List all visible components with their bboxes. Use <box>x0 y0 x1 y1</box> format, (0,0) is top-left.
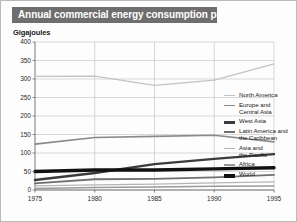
legend-item[interactable]: World <box>224 171 296 178</box>
x-tick-label: 1985 <box>147 195 162 202</box>
legend-swatch-north-america <box>224 95 235 96</box>
page-title: Annual commercial energy consumption per… <box>18 10 257 20</box>
y-tick-label: 50 <box>24 168 32 175</box>
legend-item-label: World <box>239 171 255 178</box>
legend-swatch-asia-pacific <box>224 148 235 149</box>
x-tick-label: 1995 <box>267 195 282 202</box>
legend-swatch-africa <box>224 164 235 166</box>
legend-swatch-europe-central-asia <box>224 105 235 107</box>
legend-item-label: West Asia <box>239 118 266 125</box>
legend-swatch-latin-america <box>224 131 235 133</box>
chart-legend: North AmericaEurope and Central AsiaWest… <box>224 92 296 181</box>
legend-item[interactable]: North America <box>224 92 296 99</box>
legend-item[interactable]: Latin America and the Caribbean <box>224 128 296 142</box>
legend-swatch-world <box>224 174 235 177</box>
x-tick-label: 1980 <box>88 195 103 202</box>
y-tick-label: 400 <box>20 38 31 45</box>
legend-item[interactable]: Asia and the Pacific <box>224 145 296 159</box>
legend-item-label: Africa <box>239 161 255 168</box>
chart-title-banner: Annual commercial energy consumption per… <box>12 7 217 23</box>
y-axis-ticks: 050100150200250300350400 <box>20 38 35 193</box>
legend-item-label: Europe and Central Asia <box>239 102 272 116</box>
legend-item-label: Asia and the Pacific <box>239 145 267 159</box>
chart-page: Annual commercial energy consumption per… <box>0 0 297 222</box>
legend-item[interactable]: Africa <box>224 161 296 168</box>
legend-item[interactable]: Europe and Central Asia <box>224 102 296 116</box>
y-tick-label: 250 <box>20 94 31 101</box>
y-tick-label: 300 <box>20 75 31 82</box>
legend-swatch-west-asia <box>224 121 235 123</box>
legend-item-label: North America <box>239 92 278 99</box>
x-tick-label: 1990 <box>207 195 222 202</box>
legend-item[interactable]: West Asia <box>224 118 296 125</box>
x-axis-ticks: 19751980198519901995 <box>28 190 282 202</box>
y-axis-unit-label: Gigajoules <box>13 28 50 37</box>
y-tick-label: 0 <box>27 186 31 193</box>
y-tick-label: 100 <box>20 149 31 156</box>
legend-item-label: Latin America and the Caribbean <box>239 128 288 142</box>
y-tick-label: 150 <box>20 131 31 138</box>
x-tick-label: 1975 <box>28 195 43 202</box>
y-tick-label: 350 <box>20 57 31 64</box>
y-tick-label: 200 <box>20 112 31 119</box>
